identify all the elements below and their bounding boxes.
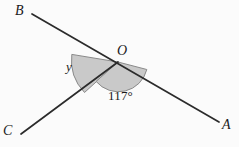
angle-label-y: y [66,60,72,73]
point-label-C: C [3,124,12,138]
angle-label-117: 117° [108,89,133,102]
point-label-O: O [117,44,127,58]
geometry-canvas [0,0,239,147]
geometry-figure: B O C A y 117° [0,0,239,147]
point-label-A: A [222,118,231,132]
point-label-B: B [15,4,24,18]
